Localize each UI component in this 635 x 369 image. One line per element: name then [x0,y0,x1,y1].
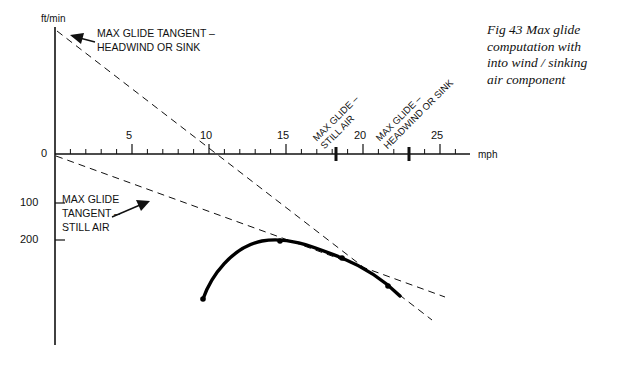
x-tick-label-20: 20 [354,129,366,141]
x-axis-unit-label: mph [478,149,497,160]
arrow-tangent-headwind [70,33,95,44]
polar-point-2 [277,238,283,244]
polar-point-4 [385,283,391,289]
callout-tangent-headwind-line1: MAX GLIDE TANGENT – [97,27,215,40]
x-tick-label-10: 10 [200,129,212,141]
callout-tangent-still-air-line1: MAX GLIDE [62,193,119,206]
x-tick-label-15: 15 [277,129,289,141]
y-tick-label-200: 200 [20,233,38,245]
x-tick-label-25: 25 [431,129,443,141]
y-tick-label-100: 100 [20,196,38,208]
x-tick-label-5: 5 [126,129,132,141]
callout-tangent-still-air-line3: STILL AIR [62,221,109,234]
tangent-line-still-air [56,156,445,297]
polar-data-points [200,238,391,302]
callout-tangent-still-air-line2: TANGENT – [62,207,120,220]
origin-label: 0 [41,147,47,159]
polar-point-1 [200,296,206,302]
callout-tangent-headwind-line2: HEADWIND OR SINK [97,41,200,54]
polar-point-3 [339,255,345,261]
glide-polar-curve [203,240,400,299]
figure-max-glide-computation: ft/min mph 0 5 10 15 20 25 100 200 MAX G… [0,0,635,369]
y-axis-unit-label: ft/min [41,13,65,24]
figure-caption: Fig 43 Max glide computation with into w… [487,22,627,88]
